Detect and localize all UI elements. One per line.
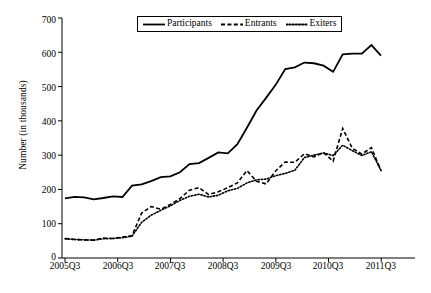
legend-swatch-dashed-icon	[221, 21, 243, 28]
x-axis-ticks	[65, 258, 381, 262]
plot-area	[0, 0, 431, 293]
legend-label-exiters: Exiters	[310, 19, 337, 29]
line-chart: Number (in thousands) 700 600 500 400 30…	[0, 0, 431, 293]
y-axis-ticks	[58, 18, 62, 258]
legend-item-participants: Participants	[143, 19, 212, 29]
chart-legend: Participants Entrants Exiters	[137, 16, 342, 32]
legend-label-entrants: Entrants	[245, 19, 277, 29]
legend-item-exiters: Exiters	[286, 19, 337, 29]
legend-swatch-dotted-icon	[286, 21, 308, 28]
series-line-entrants	[65, 128, 381, 240]
series-line-participants	[65, 45, 381, 199]
legend-item-entrants: Entrants	[221, 19, 277, 29]
legend-label-participants: Participants	[167, 19, 212, 29]
legend-swatch-solid-icon	[143, 21, 165, 28]
